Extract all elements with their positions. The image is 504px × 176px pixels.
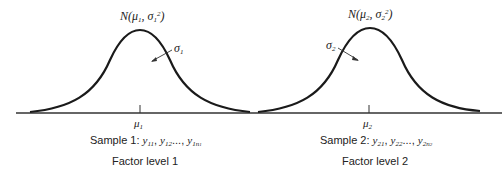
normal-curve-1 — [30, 30, 250, 112]
sample-label-1: Sample 1: y11, y12..., y1n1 — [90, 134, 202, 148]
mean-label-2: μ2 — [363, 117, 372, 131]
sd-label-2: σ2 — [326, 38, 335, 53]
arrowhead-2 — [352, 56, 359, 61]
factor-level-label-1: Factor level 1 — [112, 155, 178, 167]
distribution-label-2: N(μ2, σ22) — [348, 7, 392, 22]
mean-label-1: μ1 — [134, 117, 143, 131]
distribution-label-1: N(μ1, σ12) — [120, 9, 164, 24]
sample-label-2: Sample 2: y21, y22..., y2n2 — [320, 134, 432, 148]
normal-curve-2 — [258, 28, 480, 112]
factor-level-label-2: Factor level 2 — [342, 155, 408, 167]
diagram-canvas — [0, 0, 504, 176]
arrowhead-1 — [151, 57, 157, 62]
sd-label-1: σ1 — [174, 41, 183, 56]
